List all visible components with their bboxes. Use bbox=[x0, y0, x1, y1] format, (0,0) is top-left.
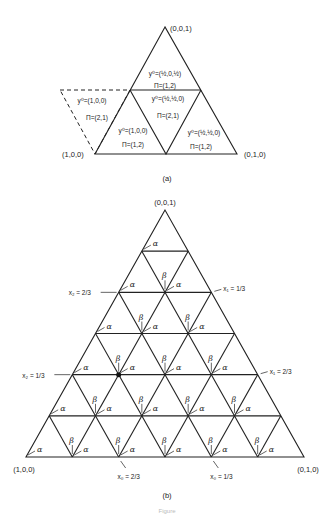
vertex-label-left: (1,0,0) bbox=[13, 465, 35, 474]
beta-label: β bbox=[161, 436, 167, 445]
simplex-figure: (0,0,1)(1,0,0)(0,1,0)y⁰=(½,0,½)Π=(1,2)y⁰… bbox=[0, 0, 335, 519]
figure-caption: Figure bbox=[158, 508, 176, 514]
alpha-label: α bbox=[222, 445, 228, 454]
beta-label: β bbox=[254, 436, 260, 445]
alpha-label: α bbox=[153, 404, 159, 413]
vertex-label-left: (1,0,0) bbox=[62, 150, 84, 159]
x0-annotation: x₀ = 1/3 bbox=[210, 473, 233, 480]
top-cell-pi-label: Π=(1,2) bbox=[154, 82, 176, 90]
beta-label: β bbox=[115, 354, 121, 363]
vertex-label-right: (0,1,0) bbox=[244, 150, 266, 159]
alpha-label: α bbox=[107, 404, 113, 413]
arrow-up-icon bbox=[213, 461, 218, 468]
panel-a-label: (a) bbox=[162, 174, 172, 183]
beta-label: β bbox=[92, 395, 98, 404]
alpha-label: α bbox=[37, 445, 43, 454]
alpha-label: α bbox=[269, 445, 275, 454]
grid-line-diagonal-b bbox=[96, 334, 166, 458]
beta-label: β bbox=[138, 313, 144, 322]
alpha-label: α bbox=[60, 404, 66, 413]
arrow-left-icon bbox=[214, 289, 221, 291]
x1-annotation: x₁ = 2/3 bbox=[270, 368, 292, 375]
alpha-label: α bbox=[176, 445, 182, 454]
x2-annotation: x₂ = 1/3 bbox=[22, 372, 45, 379]
beta-label: β bbox=[184, 395, 190, 404]
vertex-label-top: (0,0,1) bbox=[170, 24, 192, 33]
panel-a-triangle: (0,0,1)(1,0,0)(0,1,0)y⁰=(½,0,½)Π=(1,2)y⁰… bbox=[60, 24, 266, 159]
vertex-label-top: (0,0,1) bbox=[154, 198, 176, 207]
beta-label: β bbox=[231, 395, 237, 404]
beta-label: β bbox=[138, 395, 144, 404]
dashed-cell-y0-label: y⁰=(1,0,0) bbox=[78, 97, 107, 105]
alpha-label: α bbox=[246, 404, 252, 413]
left-cell-y0-label: y⁰=(1,0,0) bbox=[119, 127, 148, 135]
left-cell-pi-label: Π=(1,2) bbox=[122, 141, 144, 149]
alpha-label: α bbox=[107, 322, 113, 331]
dashed-cell-pi-label: Π=(2,1) bbox=[86, 114, 108, 122]
center-cell-y0-label: y⁰=(½,½,0) bbox=[152, 95, 184, 103]
right-cell-y0-label: y⁰=(½,½,0) bbox=[188, 129, 220, 137]
alpha-label: α bbox=[199, 404, 205, 413]
panel-b-label: (b) bbox=[162, 491, 172, 500]
alpha-label: α bbox=[130, 363, 136, 372]
alpha-label: α bbox=[130, 280, 136, 289]
beta-label: β bbox=[207, 436, 213, 445]
alpha-label: α bbox=[130, 445, 136, 454]
alpha-label: α bbox=[199, 322, 205, 331]
x0-annotation: x₀ = 2/3 bbox=[117, 473, 140, 480]
center-cell-pi-label: Π=(2,1) bbox=[157, 112, 179, 120]
beta-label: β bbox=[115, 436, 121, 445]
alpha-label: α bbox=[83, 445, 89, 454]
x1-annotation: x₁ = 1/3 bbox=[223, 285, 245, 292]
right-cell-pi-label: Π=(1,2) bbox=[190, 143, 212, 151]
alpha-label: α bbox=[83, 363, 89, 372]
top-cell-y0-label: y⁰=(½,0,½) bbox=[149, 70, 181, 78]
arrow-up-icon bbox=[121, 461, 126, 468]
arrow-left-icon bbox=[261, 372, 268, 374]
vertex-label-right: (0,1,0) bbox=[297, 465, 319, 474]
beta-label: β bbox=[184, 313, 190, 322]
alpha-label: α bbox=[176, 280, 182, 289]
beta-label: β bbox=[161, 271, 167, 280]
panel-b-triangulated-simplex: αααβααβαβααβαβαβααβαβαβαβααβαβαβαβαβ(0,0… bbox=[13, 198, 319, 480]
alpha-label: α bbox=[153, 322, 159, 331]
alpha-label: α bbox=[222, 363, 228, 372]
x2-annotation: x₂ = 2/3 bbox=[69, 289, 92, 296]
beta-label: β bbox=[68, 436, 74, 445]
alpha-label: α bbox=[176, 363, 182, 372]
beta-label: β bbox=[207, 354, 213, 363]
grid-line-diagonal-a bbox=[165, 334, 235, 458]
highlighted-vertex-dot bbox=[116, 372, 121, 377]
grid-line-diagonal-b bbox=[142, 251, 258, 457]
alpha-label: α bbox=[153, 239, 159, 248]
beta-label: β bbox=[161, 354, 167, 363]
